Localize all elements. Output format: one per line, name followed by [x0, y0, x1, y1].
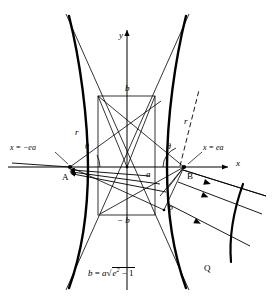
- wavefront-arc-Q: [231, 184, 244, 262]
- caption-formula: b = a√e2 − 1: [88, 267, 135, 278]
- x-axis-label: x: [236, 159, 240, 168]
- vertex-B-label: B: [187, 172, 193, 181]
- ray-out-3: [168, 204, 250, 246]
- axes: [8, 30, 228, 290]
- origin-dot: [126, 166, 129, 169]
- ray-out-2: [178, 182, 262, 214]
- leader-left-directrix: [55, 152, 68, 164]
- left-directrix-label: x = −ea: [10, 144, 36, 152]
- semi-major-label: a: [146, 170, 151, 179]
- sqrt-icon: √: [107, 268, 112, 278]
- leader-right-directrix: [188, 152, 202, 164]
- diagram-canvas: [0, 0, 274, 298]
- vertex-A-dot: [68, 165, 72, 169]
- dashed-radius-right: [180, 90, 199, 166]
- radius-left-label: r: [75, 128, 79, 137]
- dashed-line-r: [180, 90, 199, 166]
- semi-minor-bottom-label: − b: [117, 216, 130, 225]
- angle-right-label: θ: [167, 143, 171, 151]
- radius-right-label: r: [184, 117, 188, 126]
- angle-left-label: θ: [85, 143, 89, 151]
- ray-out-1b: [183, 170, 266, 196]
- point-Q-label: Q: [204, 264, 211, 273]
- y-axis-label: y: [119, 31, 123, 40]
- vertex-B-dot: [182, 165, 186, 169]
- point-P-label: P: [168, 205, 173, 214]
- right-directrix-label: x = ea: [203, 144, 224, 152]
- ray-arrowheads: [193, 179, 211, 227]
- ray-arrow-1: [203, 179, 211, 187]
- formula-radicand: e2 − 1: [112, 267, 135, 278]
- line-O-to-rect-TL: [98, 96, 127, 167]
- angle-arc-left-theta: [97, 155, 100, 167]
- vertex-A-label: A: [62, 173, 69, 182]
- formula-equals: =: [95, 268, 100, 278]
- arc-Q-path: [231, 184, 244, 262]
- point-P-dot: [163, 209, 166, 212]
- ray-left-extension: [12, 163, 70, 167]
- formula-radicand-tail: − 1: [122, 268, 134, 278]
- semi-minor-top-label: b: [125, 84, 130, 93]
- hyperbola-figure: y x x = −ea x = ea A B P Q b − b a r r θ…: [0, 0, 274, 298]
- rays: [12, 163, 266, 246]
